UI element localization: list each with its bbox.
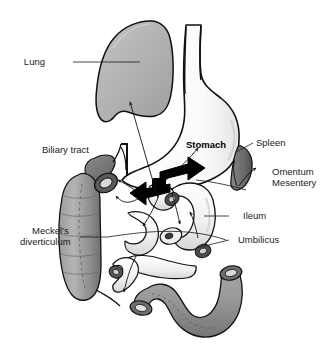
anatomy-figure: Lung Biliary tract Stomach Spleen Omentu… (0, 0, 331, 350)
label-stomach: Stomach (186, 139, 226, 150)
label-umbilicus: Umbilicus (238, 234, 279, 245)
anatomy-diagram-svg: Lung Biliary tract Stomach Spleen Omentu… (0, 0, 331, 350)
label-spleen: Spleen (256, 137, 286, 148)
label-diverticulum: diverticulum (20, 236, 71, 247)
label-mesentery: Mesentery (272, 177, 317, 188)
label-biliary-tract: Biliary tract (42, 144, 89, 155)
label-lung: Lung (24, 56, 45, 67)
esophagus-right-wall (200, 26, 201, 80)
label-ileum: Ileum (243, 210, 266, 221)
label-omentum: Omentum (272, 166, 314, 177)
label-meckels: Meckel's (32, 225, 69, 236)
